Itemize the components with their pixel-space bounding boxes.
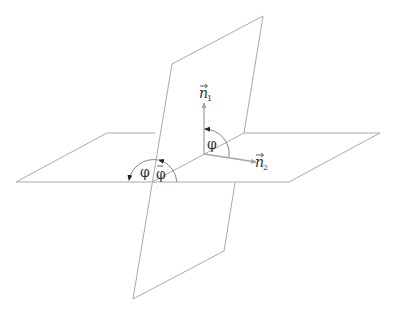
label-normal-1-subscript: 1 (207, 94, 212, 103)
label-normal-1: n 1 (199, 84, 212, 103)
vertical-plane-right-edge-upper (244, 16, 263, 133)
label-angle-between-normals: φ (207, 136, 217, 152)
vertical-plane-top-edge (172, 16, 263, 64)
label-angle-between-planes: φ (140, 164, 150, 180)
label-supplementary-angle: φ (156, 166, 166, 182)
vertical-plane-bottom-edge (133, 251, 224, 299)
horizontal-plane-right-edge (289, 133, 380, 182)
label-normal-2-subscript: 2 (263, 163, 268, 172)
vertical-plane-right-edge-lower (224, 183, 235, 251)
horizontal-plane-left-edge (16, 133, 107, 182)
planes-diagram: n 1 n 2 φ φ φ (0, 0, 396, 312)
normal-vector-2 (204, 154, 256, 162)
label-normal-2: n 2 (255, 153, 268, 172)
label-supplementary-angle-symbol: φ (156, 166, 166, 182)
